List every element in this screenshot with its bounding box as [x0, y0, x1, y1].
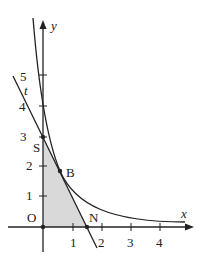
y-tick-label-5: 5 [20, 69, 27, 84]
y-tick-label-4: 4 [19, 99, 26, 114]
y-tick-label-1: 1 [26, 188, 33, 203]
y-tick-label-3: 3 [20, 129, 27, 144]
point-S [41, 135, 45, 139]
point-B [58, 169, 62, 173]
point-label-N: N [89, 210, 99, 225]
point-label-S: S [33, 140, 40, 155]
point-O [41, 225, 45, 229]
line-label-t: t [24, 83, 28, 98]
x-tick-label-1: 1 [70, 235, 77, 250]
point-N [85, 225, 89, 229]
diagram: y x t 1 2 3 4 5 1 2 3 4 S B N O [0, 0, 202, 267]
y-axis-label: y [49, 18, 57, 33]
point-label-B: B [66, 165, 75, 180]
x-tick-label-2: 2 [98, 235, 105, 250]
y-axis-arrow-icon [40, 20, 47, 29]
x-tick-label-3: 3 [127, 235, 134, 250]
x-axis-label: x [180, 206, 187, 221]
y-tick-label-2: 2 [26, 158, 33, 173]
origin-label: O [27, 210, 36, 225]
x-axis-arrow-icon [185, 224, 194, 231]
x-tick-label-4: 4 [156, 235, 163, 250]
